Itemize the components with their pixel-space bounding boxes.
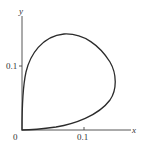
loop-curve bbox=[22, 34, 115, 130]
origin-label: 0 bbox=[13, 132, 18, 142]
plot: y x 0.1 0.1 0 bbox=[0, 0, 142, 148]
x-tick-label: 0.1 bbox=[77, 132, 88, 142]
y-axis-label: y bbox=[18, 6, 23, 16]
y-tick-label: 0.1 bbox=[6, 61, 17, 71]
x-axis-label: x bbox=[131, 125, 136, 135]
